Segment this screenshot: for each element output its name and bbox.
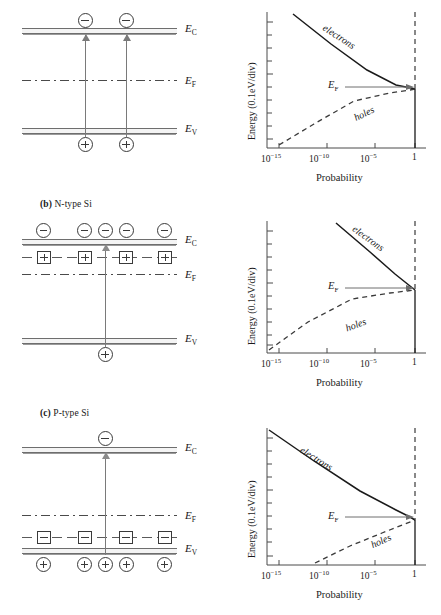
acceptor-state xyxy=(78,531,92,544)
excitation-arrow-2 xyxy=(126,35,127,137)
electron-carrier xyxy=(98,223,113,238)
hole-carrier xyxy=(77,557,92,572)
acceptor-state xyxy=(158,531,172,544)
x-axis-label: Probability xyxy=(316,377,363,388)
electron-carrier xyxy=(77,223,92,238)
plot-svg-p-type xyxy=(230,400,441,615)
band-diagram-p-type: EC EF EV xyxy=(0,400,230,615)
label-ec: EC xyxy=(185,233,197,248)
label-ef: EF xyxy=(185,74,196,89)
valence-band-edge xyxy=(22,548,177,554)
label-ef: EF xyxy=(185,268,196,283)
band-diagram-n-type: EC EF EV xyxy=(0,195,230,400)
x-axis-label: Probability xyxy=(316,172,363,183)
electrons-curve xyxy=(336,223,415,290)
electron-carrier xyxy=(157,223,172,238)
hole-carrier xyxy=(119,137,134,152)
probability-plot-p-type: Energy (0.1eV/div) Probability 10−15 10−… xyxy=(230,400,441,615)
ef-annotation-label: EF xyxy=(328,79,338,93)
electrons-curve xyxy=(293,14,415,89)
x-tick-label: 1 xyxy=(412,569,417,579)
label-ec: EC xyxy=(185,22,197,37)
electrons-curve xyxy=(269,430,415,520)
hole-carrier xyxy=(78,137,93,152)
conduction-band-edge xyxy=(22,28,177,34)
electron-carrier xyxy=(119,223,134,238)
x-axis-label: Probability xyxy=(316,589,363,600)
panel-n-type: (b) N-type Si EC EF EV xyxy=(0,195,441,400)
donor-state xyxy=(158,251,172,264)
hole-carrier xyxy=(98,557,113,572)
probability-plot-intrinsic: Energy (0.1eV/div) Probability 10−15 10−… xyxy=(230,0,441,195)
conduction-band-edge xyxy=(22,239,177,245)
excitation-arrow-1 xyxy=(105,453,106,555)
ef-annotation-arrow xyxy=(345,84,414,90)
acceptor-state xyxy=(119,531,133,544)
y-axis-label: Energy (0.1eV/div) xyxy=(246,62,257,140)
ef-annotation-arrow xyxy=(345,514,414,520)
ef-annotation-label: EF xyxy=(328,280,338,294)
excitation-arrow-1 xyxy=(85,35,86,137)
donor-state xyxy=(37,251,51,264)
label-ev: EV xyxy=(185,542,197,557)
hole-carrier xyxy=(119,557,134,572)
excitation-arrow-1 xyxy=(105,245,106,347)
x-tick-label: 1 xyxy=(412,357,417,367)
holes-curve xyxy=(315,520,415,563)
ef-annotation-label: EF xyxy=(328,510,338,524)
holes-curve xyxy=(279,89,415,145)
label-ef: EF xyxy=(185,509,196,524)
donor-state xyxy=(119,251,133,264)
panel-p-type: (c) P-type Si EC EF EV xyxy=(0,400,441,615)
hole-carrier xyxy=(98,347,113,362)
electron-carrier xyxy=(98,431,113,446)
holes-curve xyxy=(269,290,415,350)
x-tick-label: 10−10 xyxy=(309,357,329,369)
valence-band-edge xyxy=(22,128,177,134)
electron-carrier xyxy=(36,223,51,238)
x-tick-label: 10−15 xyxy=(261,569,281,581)
donor-state xyxy=(78,251,92,264)
x-tick-label: 10−15 xyxy=(261,357,281,369)
label-ec: EC xyxy=(185,441,197,456)
x-tick-label: 10−10 xyxy=(309,569,329,581)
y-axis-label: Energy (0.1eV/div) xyxy=(246,480,257,558)
band-diagram-intrinsic: EC EF EV xyxy=(0,0,230,195)
label-ev: EV xyxy=(185,332,197,347)
electron-carrier xyxy=(119,13,134,28)
y-axis-label: Energy (0.1eV/div) xyxy=(246,267,257,345)
valence-band-edge xyxy=(22,338,177,344)
hole-carrier xyxy=(157,557,172,572)
conduction-band-edge xyxy=(22,447,177,453)
x-tick-label: 10−10 xyxy=(309,152,329,164)
hole-carrier xyxy=(36,557,51,572)
x-tick-label: 10−15 xyxy=(261,152,281,164)
acceptor-state xyxy=(37,531,51,544)
panel-intrinsic: EC EF EV xyxy=(0,0,441,195)
electron-carrier xyxy=(78,13,93,28)
x-tick-label: 10−5 xyxy=(360,152,377,164)
x-tick-label: 10−5 xyxy=(360,357,377,369)
ef-annotation-arrow xyxy=(345,285,414,291)
label-ev: EV xyxy=(185,122,197,137)
plot-svg-n-type xyxy=(230,195,441,400)
x-tick-label: 10−5 xyxy=(360,569,377,581)
probability-plot-n-type: Energy (0.1eV/div) Probability 10−15 10−… xyxy=(230,195,441,400)
x-tick-label: 1 xyxy=(412,152,417,162)
